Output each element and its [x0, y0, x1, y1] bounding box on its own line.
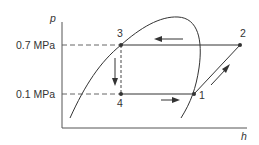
point-label-1: 1	[199, 89, 205, 101]
arrow-left-icon	[154, 36, 183, 42]
saturation-dome	[70, 17, 200, 118]
point-label-4: 4	[117, 97, 123, 109]
x-axis-label: h	[241, 130, 247, 142]
pressure-label-low: 0.1 MPa	[16, 88, 55, 100]
state-point-1	[192, 92, 196, 96]
point-label-3: 3	[117, 27, 123, 39]
y-axis-label: p	[49, 12, 56, 24]
point-label-2: 2	[240, 27, 246, 39]
state-point-2	[238, 43, 242, 47]
pressure-label-high: 0.7 MPa	[16, 39, 55, 51]
arrow-diagonal-up-icon	[211, 64, 230, 85]
process-1-2	[194, 45, 240, 94]
state-point-3	[119, 43, 123, 47]
state-point-4	[119, 92, 123, 96]
arrow-right-icon	[161, 97, 180, 103]
p-h-diagram: p h 0.7 MPa 0.1 MPa 3 4 1 2	[0, 0, 259, 145]
arrow-down-icon	[112, 58, 118, 86]
